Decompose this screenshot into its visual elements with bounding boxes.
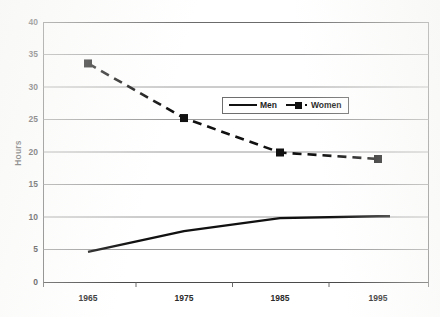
- chart-figure: Hours 40 35 30 25 20 15 10 5 0: [0, 0, 440, 317]
- x-axis-ticks: [44, 283, 429, 288]
- data-point-women-1965: [84, 59, 92, 67]
- x-tick-1995: 1995: [355, 293, 401, 303]
- legend-line-icon-men: [229, 104, 257, 106]
- x-tick-1965: 1965: [65, 293, 111, 303]
- data-point-women-1985: [276, 149, 284, 157]
- legend-dashed-square-icon-women: [286, 101, 308, 110]
- x-tick-1985: 1985: [257, 293, 303, 303]
- data-point-women-1995: [374, 155, 382, 163]
- legend-entry-women: Women: [286, 100, 342, 110]
- legend-label-men: Men: [260, 100, 277, 110]
- plot-border: [44, 23, 429, 283]
- legend-label-women: Women: [311, 100, 342, 110]
- data-point-women-1975: [180, 114, 188, 122]
- legend-entry-men: Men: [229, 100, 277, 110]
- x-tick-1975: 1975: [161, 293, 207, 303]
- chart-legend: Men Women: [222, 97, 349, 114]
- plot-area: [0, 0, 440, 317]
